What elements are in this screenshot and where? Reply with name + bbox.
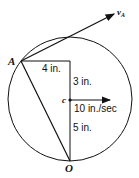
point-O-label: O bbox=[65, 162, 73, 174]
velocity-vA-arrow bbox=[21, 14, 114, 61]
dim-5in-label: 5 in. bbox=[73, 122, 92, 133]
center-velocity-label: 10 in./sec bbox=[74, 103, 117, 114]
wheel-diagram: A O c vA 4 in. 3 in. 5 in. 10 in./sec bbox=[0, 0, 139, 178]
dim-3in-label: 3 in. bbox=[73, 76, 92, 87]
velocity-label: vA bbox=[117, 7, 125, 18]
dim-4in-label: 4 in. bbox=[42, 63, 61, 74]
point-A-label: A bbox=[7, 55, 15, 67]
point-c-label: c bbox=[62, 95, 66, 105]
center-point bbox=[68, 98, 71, 101]
line-A-to-O bbox=[21, 61, 70, 161]
